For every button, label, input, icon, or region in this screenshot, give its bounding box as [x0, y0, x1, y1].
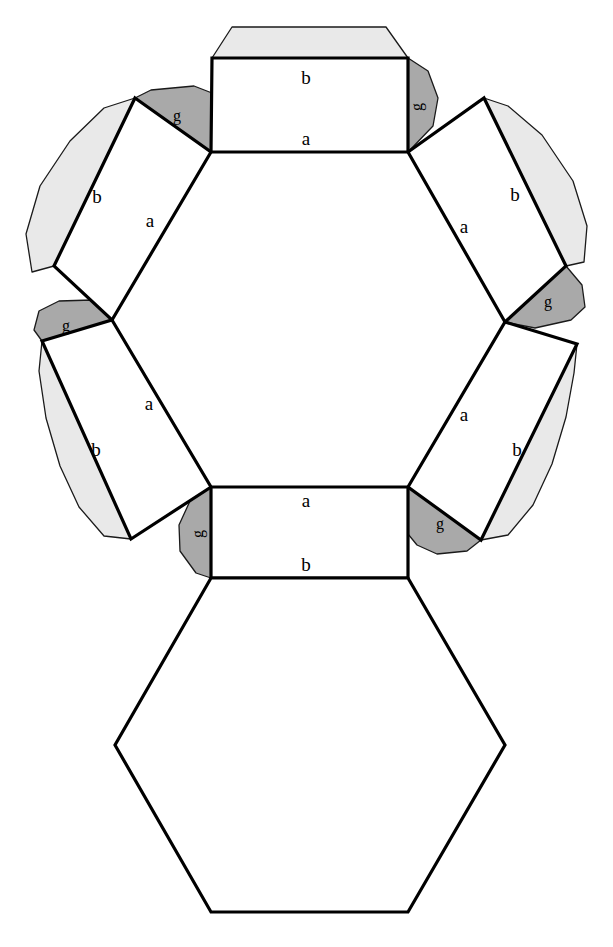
label-b-bottom-rectangle: b — [301, 554, 311, 575]
label-g-bottom-right: g — [436, 515, 444, 533]
label-a-lower-right-rectangle: a — [460, 404, 469, 425]
label-g-bottom-left: g — [189, 530, 207, 538]
label-a-bottom-rectangle: a — [302, 490, 311, 511]
label-a-top-rectangle: a — [302, 128, 311, 149]
label-b-lower-left-rectangle: b — [91, 439, 101, 460]
label-a-lower-left-rectangle: a — [145, 393, 154, 414]
label-b-lower-right-rectangle: b — [512, 439, 522, 460]
label-g-mid-left: g — [62, 317, 70, 335]
label-a-upper-right-rectangle: a — [460, 216, 469, 237]
polyhedron-net-diagram: b a b a b a a b a b a b g g g g g g — [0, 0, 613, 947]
label-b-upper-right-rectangle: b — [510, 184, 520, 205]
label-b-top-rectangle: b — [301, 67, 311, 88]
label-a-upper-left-rectangle: a — [146, 210, 155, 231]
label-g-top-left: g — [173, 107, 181, 125]
label-b-upper-left-rectangle: b — [92, 186, 102, 207]
label-g-upper-right: g — [544, 293, 552, 311]
label-g-top-right: g — [408, 103, 426, 111]
fold-flap-top — [212, 27, 408, 58]
